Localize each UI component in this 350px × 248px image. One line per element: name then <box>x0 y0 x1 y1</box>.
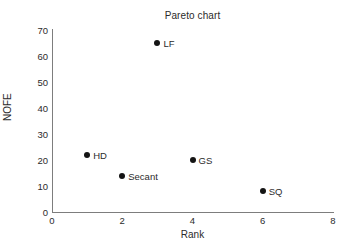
y-tick-label-30: 30 <box>37 129 48 140</box>
x-axis-title: Rank <box>52 229 333 240</box>
x-tick-label-8: 8 <box>330 215 335 226</box>
x-tick-label-6: 6 <box>260 215 265 226</box>
x-axis-line <box>52 212 334 213</box>
y-tick-label-70: 70 <box>37 25 48 36</box>
x-tick-label-4: 4 <box>190 215 195 226</box>
data-point-label-secant: Secant <box>128 170 158 181</box>
y-tick-label-20: 20 <box>37 155 48 166</box>
data-point-label-gs: GS <box>199 155 213 166</box>
x-tick-label-2: 2 <box>120 215 125 226</box>
y-tick-label-60: 60 <box>37 51 48 62</box>
y-tick-label-0: 0 <box>43 207 48 218</box>
plot-area <box>52 30 333 212</box>
y-tick-label-40: 40 <box>37 103 48 114</box>
data-point-label-hd: HD <box>93 149 107 160</box>
chart-title: Pareto chart <box>52 10 333 21</box>
data-point-secant[interactable] <box>119 173 125 179</box>
data-point-lf[interactable] <box>154 40 160 46</box>
y-tick-label-10: 10 <box>37 181 48 192</box>
pareto-chart-figure: Pareto chart 010203040506070 02468 Rank … <box>0 0 350 248</box>
data-point-hd[interactable] <box>84 152 90 158</box>
data-point-sq[interactable] <box>260 188 266 194</box>
y-axis-tick-labels: 010203040506070 <box>26 0 48 248</box>
x-tick-label-0: 0 <box>49 215 54 226</box>
data-point-label-sq: SQ <box>269 186 283 197</box>
data-point-gs[interactable] <box>190 157 196 163</box>
data-point-label-lf: LF <box>163 38 174 49</box>
y-tick-label-50: 50 <box>37 77 48 88</box>
y-axis-title: NOFE <box>2 93 13 121</box>
